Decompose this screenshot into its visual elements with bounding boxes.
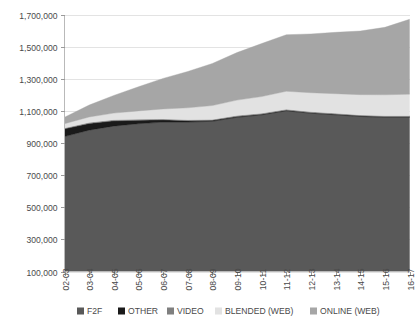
x-tick-label: 15-16 — [381, 268, 391, 290]
x-tick-label: 03-04 — [85, 268, 95, 290]
y-tick-label: 1,100,000 — [19, 107, 57, 117]
legend-label-other: OTHER — [128, 306, 158, 316]
x-axis-ticks-group: 02-0303-0404-0505-0606-0707-0808-0909-10… — [61, 268, 416, 290]
x-tick-label: 02-03 — [61, 268, 71, 290]
y-tick-label: 1,700,000 — [19, 11, 57, 21]
y-tick-label: 1,300,000 — [19, 75, 57, 85]
chart-canvas: 1,700,0001,500,0001,300,0001,100,000900,… — [0, 0, 419, 325]
legend-label-f2f: F2F — [87, 306, 102, 316]
x-tick-label: 16-17 — [406, 268, 416, 290]
legend-swatch-blended-web — [215, 308, 222, 315]
y-tick-label: 900,000 — [26, 139, 57, 149]
series-area-f2f — [65, 111, 410, 272]
legend-swatch-other — [118, 308, 125, 315]
x-tick-label: 04-05 — [110, 268, 120, 290]
legend-swatch-online-web — [310, 308, 317, 315]
stacked-area-chart: 1,700,0001,500,0001,300,0001,100,000900,… — [0, 0, 419, 325]
x-tick-label: 12-13 — [307, 268, 317, 290]
y-tick-label: 700,000 — [26, 171, 57, 181]
y-tick-label: 500,000 — [26, 203, 57, 213]
x-tick-label: 06-07 — [159, 268, 169, 290]
x-tick-label: 07-08 — [184, 268, 194, 290]
legend-label-video: VIDEO — [177, 306, 204, 316]
x-tick-label: 13-14 — [332, 268, 342, 290]
legend-swatch-video — [167, 308, 174, 315]
x-tick-label: 05-06 — [134, 268, 144, 290]
x-tick-label: 11-12 — [282, 269, 292, 291]
legend-label-online-web: ONLINE (WEB) — [320, 306, 380, 316]
y-tick-label: 300,000 — [26, 235, 57, 245]
x-tick-label: 09-10 — [233, 268, 243, 290]
legend-swatch-f2f — [77, 308, 84, 315]
x-tick-label: 10-11 — [258, 269, 268, 291]
x-tick-label: 08-09 — [208, 268, 218, 290]
y-tick-label: 100,000 — [26, 268, 57, 278]
y-tick-label: 1,500,000 — [19, 43, 57, 53]
x-tick-label: 14-15 — [356, 268, 366, 290]
legend-label-blended-web: BLENDED (WEB) — [225, 306, 293, 316]
